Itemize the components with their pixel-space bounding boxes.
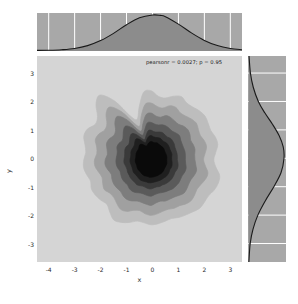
pearson-annotation: pearsonr = 0.0027; p = 0.95 xyxy=(146,59,222,65)
x-tick-label: -3 xyxy=(72,266,78,273)
jointplot-figure: pearsonr = 0.0027; p = 0.95 -4-3-2-10123… xyxy=(0,0,298,304)
x-tick-label: 1 xyxy=(177,266,181,273)
x-tick-label: 2 xyxy=(202,266,206,273)
y-axis-title: y xyxy=(3,68,15,274)
x-axis-title: x xyxy=(37,276,242,284)
marginal-x-density-fill xyxy=(37,15,242,51)
y-tick-label: 2 xyxy=(30,98,34,105)
contour-level-7 xyxy=(135,142,167,178)
y-tick-label: 3 xyxy=(30,70,34,77)
y-tick-label: 1 xyxy=(30,126,34,133)
marginal-x-plot xyxy=(37,13,242,51)
y-tick-label: 0 xyxy=(30,155,34,162)
x-tick-label: 3 xyxy=(228,266,232,273)
x-axis-tick-labels: -4-3-2-10123 xyxy=(37,266,242,276)
marginal-y-plot xyxy=(248,56,286,262)
x-tick-label: -4 xyxy=(46,266,52,273)
bottom-watermark xyxy=(84,291,214,299)
x-tick-label: 0 xyxy=(151,266,155,273)
marginal-x-axes xyxy=(37,13,242,51)
marginal-y-axes xyxy=(248,56,286,262)
joint-contour-axes xyxy=(37,56,242,262)
x-tick-label: -2 xyxy=(98,266,104,273)
y-tick-label: -3 xyxy=(28,240,34,247)
y-axis-tick-labels: -3-2-10123 xyxy=(12,56,34,262)
x-tick-label: -1 xyxy=(124,266,130,273)
y-tick-label: -1 xyxy=(28,183,34,190)
kde-contour-plot xyxy=(37,56,242,262)
y-tick-label: -2 xyxy=(28,212,34,219)
